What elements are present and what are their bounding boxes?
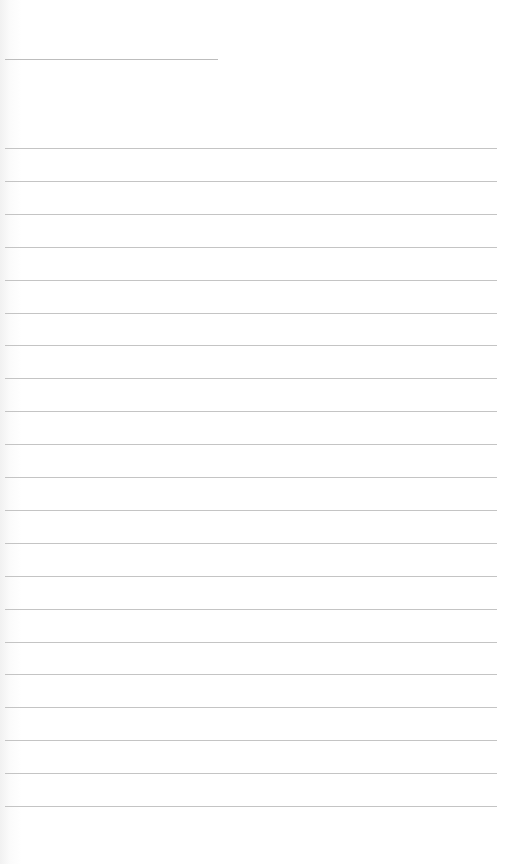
ruled-line (5, 707, 497, 708)
ruled-line (5, 642, 497, 643)
ruled-line (5, 510, 497, 511)
header-rule (5, 59, 218, 60)
ruled-line (5, 280, 497, 281)
ruled-line (5, 576, 497, 577)
ruled-line (5, 411, 497, 412)
ruled-line (5, 773, 497, 774)
ruled-line (5, 674, 497, 675)
ruled-line (5, 214, 497, 215)
ruled-line (5, 378, 497, 379)
ruled-line (5, 444, 497, 445)
ruled-line (5, 313, 497, 314)
lined-paper-page (0, 0, 526, 864)
ruled-line (5, 345, 497, 346)
ruled-line (5, 806, 497, 807)
ruled-line (5, 148, 497, 149)
ruled-line (5, 477, 497, 478)
ruled-line (5, 609, 497, 610)
ruled-line (5, 543, 497, 544)
ruled-line (5, 247, 497, 248)
ruled-line (5, 740, 497, 741)
ruled-line (5, 181, 497, 182)
